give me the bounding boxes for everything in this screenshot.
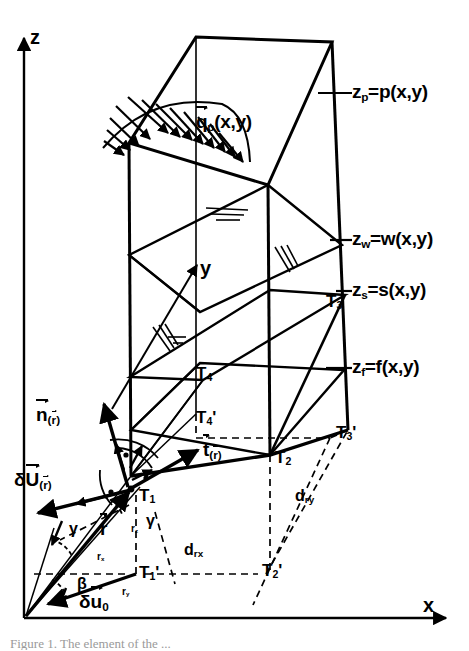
point-t4-sub: 4: [206, 371, 212, 383]
angle-label-gamma-right: γ: [146, 513, 155, 529]
vector-arrow-U: U: [26, 470, 40, 489]
surface-label-water-sub: w: [361, 237, 370, 250]
point-t3-sub: 3: [336, 299, 342, 311]
dimension-label-drx: drx: [184, 542, 203, 559]
comp-rx-sub: x: [101, 555, 104, 562]
point-t4p-prime: ': [212, 408, 216, 427]
surface-label-water-rhs: =w(x,y): [370, 228, 433, 249]
figure-caption: Figure 1. The element of the ...: [10, 636, 465, 650]
point-label-t3: T3: [326, 293, 342, 311]
vector-arrow-accent: [43, 476, 48, 477]
dim-drx-base: d: [184, 541, 194, 558]
vector-label-position-base: r: [100, 518, 107, 539]
vector-label-base-prefix: δ: [79, 591, 91, 612]
surface-label-sediment: zs=s(x,y): [352, 280, 426, 300]
load-label-base: q: [196, 111, 207, 132]
point-label-t1-prime: T1': [139, 564, 159, 582]
surface-label-bottom-rhs: =f(x,y): [365, 356, 419, 377]
angle-label-gamma-left: γ: [69, 521, 78, 537]
vector-arrow-n: n: [36, 405, 48, 424]
point-t3p-prime: ': [352, 423, 356, 442]
angle-label-beta: β: [77, 576, 87, 592]
point-label-t2: T2: [275, 449, 291, 467]
vector-arrow-accent: [26, 464, 40, 466]
point-t3-base: T: [326, 292, 336, 311]
dim-dry-sub: ry: [305, 494, 314, 505]
component-label-rz: rz: [131, 524, 138, 535]
vector-arrow-accent: [91, 586, 103, 588]
vector-arrow-U-sub: r: [43, 479, 48, 491]
point-t1p-base: T: [139, 563, 149, 582]
point-t1p-prime: ': [155, 563, 159, 582]
vector-arrow-accent: [36, 399, 48, 401]
point-t4p-base: T: [196, 408, 206, 427]
surface-label-pressure-rhs: =p(x,y): [368, 81, 428, 102]
vector-arrow-accent: [203, 434, 209, 436]
surface-label-water: zw=w(x,y): [352, 229, 433, 249]
surface-label-water-z: z: [352, 228, 361, 249]
vector-label-position: r: [100, 519, 107, 538]
component-label-rx: rx: [97, 552, 104, 563]
vector-label-displacement-base: U: [26, 469, 40, 490]
surface-label-bottom-z: z: [352, 356, 361, 377]
hatch-marks: [153, 208, 298, 351]
vector-arrow-t-sub: r: [213, 449, 218, 461]
surface-label-sediment-z: z: [352, 279, 361, 300]
point-t2p-prime: ': [278, 561, 282, 580]
load-label-rhs: (x,y): [214, 111, 252, 132]
vector-label-tangent-sub: (r): [209, 448, 221, 461]
vector-label-normal-base: n: [36, 404, 48, 425]
figure-canvas: z x y zp=p(x,y) zw=w(x,y) zs=s(x,y) zf=f…: [0, 0, 469, 651]
point-label-t2-prime: T2': [262, 562, 282, 580]
point-t2p-base: T: [262, 561, 272, 580]
axis-label-x: x: [423, 595, 434, 615]
surface-label-bottom: zf=f(x,y): [352, 357, 419, 377]
dim-drx-sub: rx: [194, 548, 203, 559]
vector-arrow-accent: [52, 411, 57, 412]
point-t2-base: T: [275, 448, 285, 467]
surface-label-pressure: zp=p(x,y): [352, 82, 428, 102]
surface-label-pressure-z: z: [352, 81, 361, 102]
point-t2-sub: 2: [285, 455, 291, 467]
point-t1-sub: 1: [149, 493, 155, 505]
axis-label-y: y: [200, 258, 211, 278]
surface-label-sediment-rhs: =s(x,y): [367, 279, 426, 300]
vector-arrow-n-sub: r: [52, 414, 57, 426]
load-label: qp(x,y): [196, 112, 252, 132]
dimension-label-dry: dry: [295, 488, 314, 505]
vector-arrow-t: t: [203, 440, 209, 459]
vector-label-displacement-sub: (r): [39, 478, 51, 491]
vector-arrow-accent: [213, 446, 218, 447]
vector-arrow-r: r: [100, 519, 107, 538]
vector-label-base-sub: 0: [102, 600, 109, 613]
vector-arrow-accent: [196, 106, 207, 108]
point-t3p-base: T: [336, 423, 346, 442]
vector-label-base-displacement: δu0: [79, 592, 109, 612]
comp-rz-sub: z: [135, 527, 138, 534]
dim-dry-base: d: [295, 487, 305, 504]
vector-label-displacement-prefix: δ: [14, 469, 26, 490]
point-label-t1: T1: [139, 487, 155, 505]
vector-label-tangent-base: t: [203, 439, 209, 460]
vector-arrow-u: u: [91, 592, 103, 611]
component-label-ry: ry: [122, 587, 129, 598]
vector-label-tangent: t(r): [203, 440, 222, 460]
vector-arrow-accent: [100, 513, 107, 515]
point-t4-base: T: [196, 364, 206, 383]
point-t1-base: T: [139, 486, 149, 505]
vector-label-displacement: δU(r): [14, 470, 52, 490]
load-label-vector: q: [196, 112, 207, 131]
comp-ry-sub: y: [126, 590, 129, 597]
point-label-t4: T4: [196, 365, 212, 383]
vector-label-base-base: u: [91, 591, 103, 612]
point-label-t3-prime: T3': [336, 424, 356, 442]
vector-label-normal: n(r): [36, 405, 60, 425]
vector-label-normal-sub: (r): [48, 413, 60, 426]
axis-label-z: z: [30, 27, 40, 47]
point-label-t4-prime: T4': [196, 409, 216, 427]
point-t-marker: [128, 486, 135, 493]
